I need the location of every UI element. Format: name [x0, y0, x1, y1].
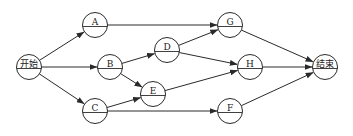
edge-D-to-H — [179, 53, 237, 65]
edges-layer — [39, 25, 313, 111]
edge-B-to-D — [122, 54, 155, 64]
node-B: B — [98, 55, 123, 80]
edge-C-to-E — [107, 98, 141, 108]
edge-start-to-A — [40, 32, 85, 60]
diagram-canvas: 开始ABCDEGHF结束 — [0, 0, 353, 136]
node-F: F — [218, 99, 243, 124]
node-G: G — [218, 13, 243, 38]
node-end: 结束 — [313, 55, 338, 80]
node-label: B — [107, 59, 114, 69]
node-H: H — [238, 55, 263, 80]
node-label: D — [163, 42, 170, 52]
edge-E-to-H — [165, 71, 238, 91]
network-diagram: 开始ABCDEGHF结束 — [0, 0, 353, 136]
node-label: H — [246, 59, 254, 69]
node-start: 开始 — [17, 55, 42, 80]
edge-D-to-G — [179, 30, 218, 46]
node-E: E — [141, 82, 166, 107]
node-C: C — [83, 99, 108, 124]
node-label: 结束 — [316, 58, 334, 69]
node-D: D — [155, 38, 180, 63]
node-label: E — [150, 86, 157, 96]
edge-B-to-E — [121, 74, 142, 88]
node-label: C — [92, 103, 99, 113]
nodes-layer: 开始ABCDEGHF结束 — [17, 13, 338, 124]
node-label: F — [227, 103, 233, 113]
node-label: G — [226, 17, 233, 27]
edge-start-to-C — [39, 74, 84, 104]
node-A: A — [83, 13, 108, 38]
node-label: A — [91, 17, 99, 27]
node-label: 开始 — [20, 58, 38, 69]
